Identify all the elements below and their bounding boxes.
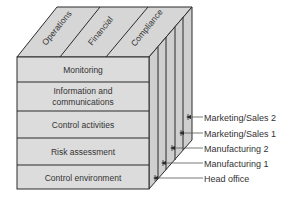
component-control-environment: Control environment	[45, 173, 122, 183]
unit-marketing-sales-2: Marketing/Sales 2	[204, 113, 276, 123]
unit-head-office: Head office	[204, 174, 249, 184]
unit-marketing-sales-1: Marketing/Sales 1	[204, 129, 276, 139]
unit-manufacturing-1: Manufacturing 1	[204, 159, 269, 169]
side-unit-labels: Marketing/Sales 2 Marketing/Sales 1 Manu…	[204, 113, 276, 184]
front-face: Monitoring Information and communication…	[17, 57, 149, 189]
component-control-activities: Control activities	[52, 120, 114, 130]
coso-cube-diagram: Operations Financial Compliance Monitori…	[0, 0, 290, 202]
component-information-line2: communications	[52, 97, 113, 107]
component-information-line1: Information and	[53, 86, 112, 96]
component-monitoring: Monitoring	[63, 65, 103, 75]
unit-manufacturing-2: Manufacturing 2	[204, 144, 269, 154]
component-risk-assessment: Risk assessment	[51, 147, 116, 157]
